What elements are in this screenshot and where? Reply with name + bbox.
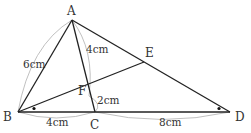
label-e: E <box>145 46 154 60</box>
angle-mark-b <box>32 107 35 110</box>
measure-bc: 4cm <box>46 116 69 128</box>
triangle-lines <box>18 20 230 112</box>
label-b: B <box>3 110 12 124</box>
measure-af: 4cm <box>86 43 109 55</box>
label-c: C <box>90 118 99 132</box>
geometry-diagram: A B C D E F 6cm 4cm 2cm 4cm 8cm <box>0 0 251 133</box>
segment-ac <box>72 20 95 112</box>
segment-ad <box>72 20 230 112</box>
measure-fc: 2cm <box>97 94 120 106</box>
measure-cd: 8cm <box>159 116 182 128</box>
label-f: F <box>78 84 86 98</box>
angle-mark-d <box>217 107 220 110</box>
label-a: A <box>66 4 76 18</box>
label-d: D <box>235 110 245 124</box>
measure-ab: 6cm <box>23 58 46 70</box>
